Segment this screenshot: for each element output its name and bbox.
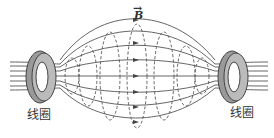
magnetic-field-diagram: → B 线圈 线圈 — [0, 0, 274, 138]
right-coil — [218, 51, 248, 103]
left-coil-label: 线圈 — [27, 105, 51, 122]
left-coil — [26, 51, 56, 103]
field-label-b: B — [134, 9, 143, 22]
right-coil-label: 线圈 — [230, 103, 254, 120]
